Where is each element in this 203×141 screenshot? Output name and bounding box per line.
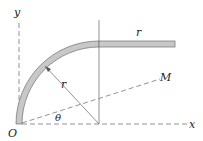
moment-label: M bbox=[159, 71, 172, 84]
y-axis-label: y bbox=[13, 6, 21, 19]
angle-label: θ bbox=[55, 112, 61, 123]
radius-label: r bbox=[61, 78, 67, 91]
curved-rod-diagram: y x O r r M θ bbox=[0, 0, 203, 141]
radius-line bbox=[45, 66, 99, 124]
origin-label: O bbox=[8, 127, 17, 140]
moment-direction-line bbox=[22, 79, 160, 123]
x-axis-label: x bbox=[189, 118, 196, 131]
bar-length-label: r bbox=[136, 26, 142, 39]
straight-rod-segment bbox=[99, 41, 175, 47]
